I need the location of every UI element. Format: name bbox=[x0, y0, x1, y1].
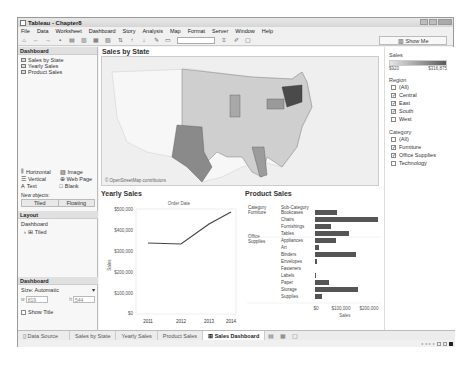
menu-worksheet[interactable]: Worksheet bbox=[56, 28, 82, 34]
globe-icon: ⊕ bbox=[60, 176, 65, 182]
checkbox[interactable] bbox=[391, 101, 396, 106]
save-icon[interactable]: ▪ bbox=[57, 37, 63, 43]
show-me-button[interactable]: ▥ Show Me bbox=[379, 36, 447, 45]
fit-select[interactable] bbox=[177, 37, 215, 44]
window-title: Tableau - Chapter8 bbox=[28, 20, 82, 26]
minimize-button[interactable] bbox=[420, 19, 428, 25]
menu-file[interactable]: File bbox=[21, 28, 30, 34]
new-story-tab-icon[interactable]: ▢ bbox=[289, 331, 301, 340]
checkbox[interactable] bbox=[391, 161, 396, 166]
object-horizontal[interactable]: ⫼Horizontal bbox=[21, 168, 60, 175]
floating-button[interactable]: Floating bbox=[59, 200, 95, 206]
pen-icon[interactable]: ✐ bbox=[233, 37, 239, 43]
menu-map[interactable]: Map bbox=[170, 28, 181, 34]
checkbox[interactable] bbox=[391, 145, 396, 150]
layout-tree-tiled[interactable]: ›⊞Tiled bbox=[18, 229, 98, 235]
menu-story[interactable]: Story bbox=[123, 28, 136, 34]
menu-data[interactable]: Data bbox=[37, 28, 49, 34]
object-blank[interactable]: □Blank bbox=[60, 183, 99, 189]
dashboard-settings-section: Dashboard Size: Automatic ▾ w819 h544 Sh… bbox=[18, 277, 98, 320]
height-stepper[interactable]: 544 bbox=[73, 296, 95, 303]
dashboard-settings-header: Dashboard bbox=[18, 277, 98, 285]
sort-asc-icon[interactable]: ↑ bbox=[129, 37, 135, 43]
layout-tree-root[interactable]: Dashboard bbox=[18, 219, 98, 229]
sort-desc-icon[interactable]: ↓ bbox=[141, 37, 147, 43]
tiled-button[interactable]: Tiled bbox=[22, 200, 59, 206]
redo-icon[interactable]: → bbox=[45, 37, 51, 43]
region-west[interactable]: West bbox=[389, 115, 455, 123]
menu-window[interactable]: Window bbox=[235, 28, 255, 34]
undo-icon[interactable]: ← bbox=[33, 37, 39, 43]
expand-icon[interactable]: › bbox=[24, 229, 26, 235]
tableau-app-icon bbox=[20, 20, 26, 26]
region-central[interactable]: Central bbox=[389, 91, 455, 99]
svg-text:$300,000: $300,000 bbox=[114, 249, 133, 254]
home-icon[interactable]: ⌂ bbox=[21, 37, 27, 43]
menu-analysis[interactable]: Analysis bbox=[142, 28, 162, 34]
object-web-page[interactable]: ⊕Web Page bbox=[60, 176, 99, 182]
svg-text:Sales: Sales bbox=[339, 313, 351, 318]
presentation-icon[interactable]: ▢ bbox=[245, 37, 251, 43]
checkbox[interactable] bbox=[21, 310, 26, 315]
sales-by-state-map[interactable]: © OpenStreetMap contributors bbox=[101, 56, 379, 186]
filmstrip-view-icon[interactable] bbox=[443, 342, 447, 346]
region-all[interactable]: (All) bbox=[389, 83, 455, 91]
tab-sales-by-state[interactable]: Sales by State bbox=[70, 331, 116, 340]
clear-icon[interactable]: ▧ bbox=[105, 37, 111, 43]
menu-dashboard[interactable]: Dashboard bbox=[89, 28, 116, 34]
category-office-supplies[interactable]: Office Supplies bbox=[389, 151, 455, 159]
checkbox[interactable] bbox=[391, 137, 396, 142]
line-chart[interactable]: Order Date $500,000 $400,000 $300,000 $2… bbox=[101, 197, 239, 327]
tab-yearly-sales[interactable]: Yearly Sales bbox=[116, 331, 157, 340]
show-title-checkbox[interactable]: Show Title bbox=[18, 304, 98, 320]
width-stepper[interactable]: 819 bbox=[26, 296, 48, 303]
add-datasource-icon[interactable]: ▤ bbox=[69, 37, 75, 43]
bar-chart[interactable]: Category Furniture Office Supplies Sub-C… bbox=[245, 197, 383, 327]
close-button[interactable] bbox=[438, 19, 452, 25]
region-south[interactable]: South bbox=[389, 107, 455, 115]
svg-text:$0: $0 bbox=[313, 306, 319, 311]
object-image[interactable]: ▨Image bbox=[60, 168, 99, 175]
svg-text:Envelopes: Envelopes bbox=[281, 259, 303, 264]
maximize-button[interactable] bbox=[429, 19, 437, 25]
size-select[interactable]: Size: Automatic ▾ bbox=[18, 285, 98, 295]
tabs-view-icon[interactable] bbox=[449, 342, 453, 346]
object-vertical[interactable]: ☰Vertical bbox=[21, 176, 60, 182]
checkbox[interactable] bbox=[391, 85, 396, 90]
menu-help[interactable]: Help bbox=[262, 28, 273, 34]
new-worksheet-icon[interactable]: ▥ bbox=[81, 37, 87, 43]
last-sheet-icon[interactable]: ▸ bbox=[433, 341, 435, 346]
dashboard-icon: ⊞ bbox=[208, 333, 213, 339]
tab-data-source[interactable]: ▯ Data Source bbox=[18, 331, 70, 340]
region-east[interactable]: East bbox=[389, 99, 455, 107]
checkbox[interactable] bbox=[391, 117, 396, 122]
menu-format[interactable]: Format bbox=[188, 28, 205, 34]
object-text[interactable]: AText bbox=[21, 183, 60, 189]
svg-text:Chairs: Chairs bbox=[281, 217, 295, 222]
first-sheet-icon[interactable]: ◂ bbox=[421, 341, 423, 346]
category-technology[interactable]: Technology bbox=[389, 159, 455, 167]
new-dashboard-tab-icon[interactable]: ▦ bbox=[277, 331, 289, 340]
checkbox[interactable] bbox=[391, 153, 396, 158]
checkbox[interactable] bbox=[391, 109, 396, 114]
labels-icon[interactable]: ≡ bbox=[221, 37, 227, 43]
swap-icon[interactable]: ⇅ bbox=[117, 37, 123, 43]
status-bar: ◂ ◂ ▸ ▸ bbox=[18, 340, 455, 347]
category-all[interactable]: (All) bbox=[389, 135, 455, 143]
sorter-view-icon[interactable] bbox=[437, 342, 441, 346]
duplicate-icon[interactable]: ▦ bbox=[93, 37, 99, 43]
tab-sales-dashboard[interactable]: ⊞ Sales Dashboard bbox=[203, 331, 265, 340]
group-icon[interactable]: ▭ bbox=[165, 37, 171, 43]
next-sheet-icon[interactable]: ▸ bbox=[429, 341, 431, 346]
category-furniture[interactable]: Furniture bbox=[389, 143, 455, 151]
legend-panel: Sales $920 $316,875 Region (All) Central… bbox=[384, 47, 455, 330]
highlight-icon[interactable]: ✎ bbox=[153, 37, 159, 43]
prev-sheet-icon[interactable]: ◂ bbox=[425, 341, 427, 346]
new-worksheet-tab-icon[interactable]: ▤ bbox=[265, 331, 277, 340]
bar-chart-icon: ▥ bbox=[398, 38, 404, 44]
menu-server[interactable]: Server bbox=[212, 28, 228, 34]
checkbox[interactable] bbox=[391, 93, 396, 98]
svg-text:$500,000: $500,000 bbox=[114, 207, 133, 212]
sheet-item-product-sales[interactable]: Product Sales bbox=[18, 69, 97, 75]
tab-product-sales[interactable]: Product Sales bbox=[158, 331, 203, 340]
